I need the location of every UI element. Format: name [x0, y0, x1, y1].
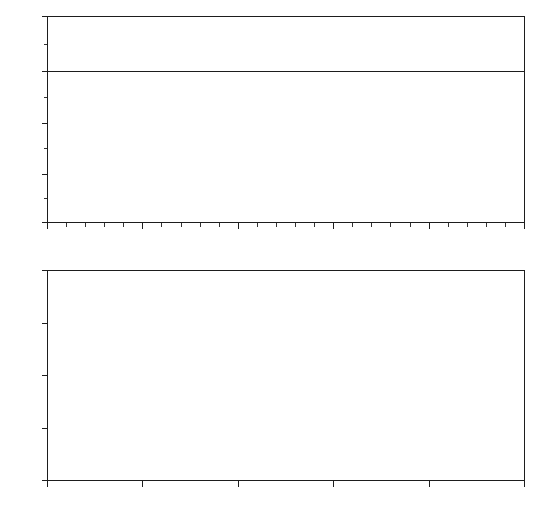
annual-x-ticks	[48, 223, 525, 229]
cumulative-x-ticks	[48, 481, 525, 487]
cumulative-y-ticks	[42, 271, 48, 481]
annual-x-minor-ticks	[67, 223, 506, 227]
chart-cumulative-mass-balance	[0, 255, 554, 520]
annual-y-ticks	[42, 17, 48, 223]
annual-chart-svg	[0, 0, 554, 258]
cumulative-chart-svg	[0, 255, 554, 520]
cumulative-axes-frame	[48, 271, 525, 481]
figure-container	[0, 0, 554, 520]
annual-axes-frame	[48, 17, 525, 223]
chart-annual-mass-balance	[0, 0, 554, 258]
